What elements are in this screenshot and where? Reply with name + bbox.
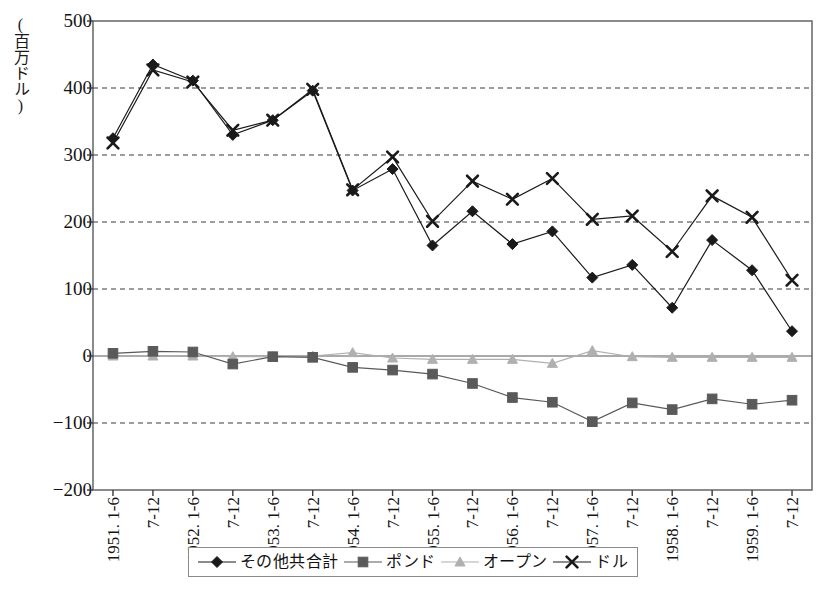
legend-item-triangle[interactable]: オープン (441, 554, 548, 570)
x-axis-tick-labels: 1951. 1-67-121952. 1-67-121953. 1-67-121… (0, 0, 822, 590)
legend-key-diamond (198, 555, 236, 569)
legend-item-square[interactable]: ポンド (344, 554, 436, 570)
legend-label: ドル (595, 554, 628, 570)
diamond-marker (211, 557, 222, 568)
legend-item-diamond[interactable]: その他共合計 (198, 554, 339, 570)
chart-legend: その他共合計ポンドオープンドル (188, 547, 638, 577)
legend-key-square (344, 555, 382, 569)
legend-label: オープン (483, 554, 548, 570)
legend-label: ポンド (386, 554, 436, 570)
legend-label: その他共合計 (240, 554, 339, 570)
data-point-diamond (211, 557, 222, 568)
chart-figure: (百万ドル) 5004003002001000−100−200 1951. 1-… (0, 0, 822, 590)
data-point-square (358, 557, 368, 567)
legend-key-x (553, 555, 591, 569)
legend-item-x[interactable]: ドル (553, 554, 628, 570)
legend-key-triangle (441, 555, 479, 569)
square-marker (358, 557, 368, 567)
